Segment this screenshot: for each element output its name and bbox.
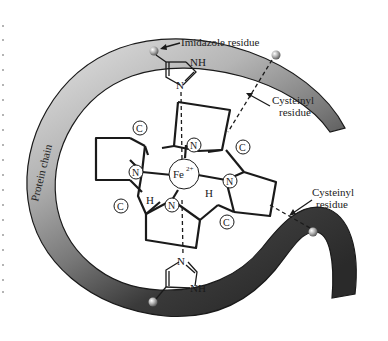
cysteinyl-top-label-1: Cysteinyl bbox=[272, 94, 314, 106]
svg-text:C: C bbox=[136, 123, 143, 134]
svg-text:N: N bbox=[176, 79, 184, 91]
svg-text:C: C bbox=[239, 142, 246, 153]
svg-text:N: N bbox=[132, 167, 139, 178]
svg-text:NH: NH bbox=[190, 56, 206, 68]
svg-text:Fe: Fe bbox=[173, 168, 184, 180]
svg-text:C: C bbox=[223, 217, 230, 228]
svg-text:NH: NH bbox=[190, 282, 206, 294]
svg-text:N: N bbox=[168, 200, 175, 211]
cysteinyl-top-label-2: residue bbox=[279, 106, 311, 118]
imidazole-residue-label: Imidazole residue bbox=[181, 36, 260, 48]
svg-text:N: N bbox=[226, 176, 233, 187]
chain-anchor-ball bbox=[150, 47, 159, 56]
margin-dots bbox=[2, 25, 4, 293]
svg-text:N: N bbox=[177, 255, 185, 267]
cysteinyl-top-arrow bbox=[250, 95, 270, 106]
cysteinyl-right-label-2: residue bbox=[316, 198, 348, 210]
chain-anchor-ball bbox=[272, 51, 281, 60]
svg-text:H: H bbox=[146, 194, 154, 206]
svg-text:H: H bbox=[205, 187, 213, 199]
heme-protein-diagram: Protein chain Imidazole residue N NH Cys… bbox=[0, 0, 388, 341]
svg-text:C: C bbox=[117, 201, 124, 212]
chain-anchor-ball bbox=[309, 228, 318, 237]
svg-text:2+: 2+ bbox=[186, 165, 194, 173]
svg-text:N: N bbox=[190, 140, 197, 151]
cysteinyl-right-label-1: Cysteinyl bbox=[312, 186, 354, 198]
